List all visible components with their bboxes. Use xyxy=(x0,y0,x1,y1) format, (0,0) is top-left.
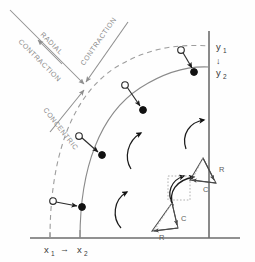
upper-radial-label: R xyxy=(219,165,225,174)
start-point-open-marker xyxy=(50,198,57,205)
triangle-hypotenuse-dotted xyxy=(154,203,172,231)
triangle-outline xyxy=(190,158,216,183)
triangle-outline xyxy=(152,203,178,231)
triangle-hypotenuse-dotted xyxy=(192,158,203,180)
start-point-open-marker xyxy=(178,47,185,54)
x1-subscript: 1 xyxy=(51,250,55,257)
start-point-open-marker xyxy=(122,82,129,89)
end-point-filled-marker xyxy=(191,69,198,76)
y1-subscript: 1 xyxy=(223,47,227,54)
component-triangle-group: R C C R xyxy=(152,158,225,242)
axis-label-group: y 1 ↓ y 2 x 1 → x 2 xyxy=(44,41,227,257)
end-point-filled-marker xyxy=(99,152,106,159)
rotation-arc-upper-left xyxy=(127,133,141,169)
concentric-label: CONCENTRIC xyxy=(42,106,79,151)
rotation-arc-upper-right xyxy=(185,120,204,149)
end-point-filled-marker xyxy=(140,107,147,114)
displacement-vector-1 xyxy=(178,47,198,76)
rotation-arrow-group xyxy=(115,120,204,228)
lower-concentric-label: C xyxy=(181,214,187,223)
displacement-vector-3 xyxy=(76,133,106,159)
end-point-filled-marker xyxy=(79,204,86,211)
vector-shaft xyxy=(56,202,77,206)
upper-concentric-label: C xyxy=(203,185,209,194)
start-point-open-marker xyxy=(76,133,83,140)
x2-subscript: 2 xyxy=(84,250,88,257)
radial-contraction-arrow-down xyxy=(10,10,84,84)
vector-shaft xyxy=(182,51,192,68)
x1-label: x xyxy=(44,244,49,255)
y-direction-arrow-glyph: ↓ xyxy=(216,56,221,66)
displacement-vector-4 xyxy=(50,198,86,211)
x-direction-arrow-glyph: → xyxy=(60,244,69,254)
diagram-canvas: RADIAL CONTRACTION CONTRACTION CONCENTRI… xyxy=(0,0,255,262)
concentric-component-arrow xyxy=(192,180,216,183)
radial-component-arrow xyxy=(172,203,177,225)
concentric-component-arrow xyxy=(154,228,178,231)
x2-label: x xyxy=(77,244,82,255)
rotation-arc-path xyxy=(185,120,204,149)
component-triangle-upper: R C xyxy=(190,158,225,194)
y2-subscript: 2 xyxy=(223,73,227,80)
rotation-arc-path xyxy=(115,192,127,228)
y1-label: y xyxy=(216,41,221,52)
y2-label: y xyxy=(216,67,221,78)
figure-root: RADIAL CONTRACTION CONTRACTION CONCENTRI… xyxy=(0,0,255,262)
lower-radial-label: R xyxy=(159,233,165,242)
rotation-arc-path xyxy=(127,133,141,169)
rotation-arc-lower-left xyxy=(115,192,127,228)
contraction-label: CONTRACTION xyxy=(79,16,117,67)
component-triangle-lower: C R xyxy=(152,203,187,242)
